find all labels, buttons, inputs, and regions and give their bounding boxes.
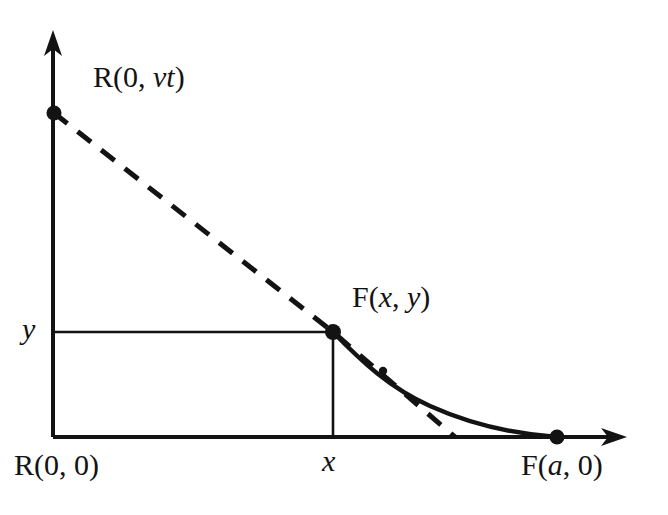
label-fugitive-point-prefix: F(: [352, 280, 379, 313]
label-x-axis-tick: x: [322, 446, 335, 476]
label-fugitive-point-math-y: y: [407, 280, 420, 313]
point-marker-curve-tick: [379, 367, 387, 375]
label-pursuer-start-math: vt: [153, 60, 175, 93]
label-fugitive-point-comma: ,: [392, 280, 407, 313]
label-pursuer-start: R(0, vt): [93, 62, 185, 92]
point-marker-pursuer-start: [47, 106, 62, 121]
fugitive-path-curve: [333, 332, 557, 437]
label-fugitive-point: F(x, y): [352, 282, 430, 312]
point-marker-fugitive-start: [550, 430, 565, 445]
label-y-axis-tick: y: [22, 314, 35, 344]
label-fugitive-start-suffix: , 0): [563, 448, 603, 481]
label-fugitive-point-math-x: x: [379, 280, 392, 313]
point-marker-fugitive-current: [325, 324, 341, 340]
label-origin: R(0, 0): [14, 450, 99, 480]
y-axis: [44, 30, 62, 437]
label-fugitive-start-prefix: F(: [521, 448, 548, 481]
label-fugitive-start: F(a, 0): [521, 450, 603, 480]
pursuit-curve-figure: R(0, vt) F(x, y) R(0, 0) F(a, 0) y x: [0, 0, 668, 515]
label-pursuer-start-suffix: ): [175, 60, 185, 93]
label-fugitive-point-suffix: ): [420, 280, 430, 313]
label-pursuer-start-prefix: R(0,: [93, 60, 153, 93]
label-fugitive-start-math: a: [548, 448, 563, 481]
